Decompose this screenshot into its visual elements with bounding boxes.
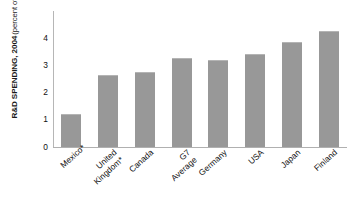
bar [319, 31, 339, 146]
bar [245, 54, 265, 146]
y-tick-label: 3 [43, 61, 48, 69]
y-tick-label: 4 [43, 34, 48, 42]
bar [208, 60, 228, 147]
x-axis-tick-labels: Mexico*United Kingdom*CanadaG7 AverageGe… [53, 148, 347, 211]
bar [172, 58, 192, 146]
y-axis-tick-labels: 01234 [0, 11, 53, 148]
y-tick-label: 2 [43, 88, 48, 96]
bar [135, 72, 155, 147]
bar [98, 75, 118, 147]
bar [61, 114, 81, 147]
rd-spending-bar-chart: R&D SPENDING, 2004 (percent of GDP) 0123… [0, 0, 361, 211]
bar [282, 42, 302, 146]
bars-layer [53, 11, 347, 148]
y-tick-label: 1 [43, 115, 48, 123]
y-tick-label: 0 [43, 142, 48, 150]
x-tick-label: Mexico* [59, 148, 82, 170]
plot-area [53, 11, 347, 148]
